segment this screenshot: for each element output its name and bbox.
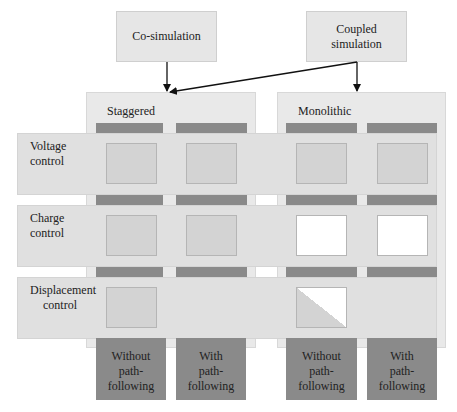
- cell-filled: [106, 143, 157, 184]
- row-label-line1: Voltage: [30, 139, 66, 154]
- column-bar: [96, 267, 163, 277]
- cell-filled: [186, 215, 237, 256]
- column-footer-line2: path-following: [286, 364, 357, 394]
- monolithic-title: Monolithic: [298, 104, 351, 119]
- column-footer-line2: path-following: [176, 364, 246, 394]
- column-footer-monolithic-with: With path-following: [367, 338, 437, 400]
- column-bar: [367, 195, 437, 205]
- coupled-simulation-label-line1: Coupled: [336, 22, 377, 37]
- column-bar: [176, 267, 247, 277]
- column-bar: [286, 267, 357, 277]
- column-bar: [286, 123, 357, 133]
- column-footer-line1: Without: [112, 349, 151, 364]
- cell-filled: [106, 215, 157, 256]
- column-footer-staggered-with: With path-following: [176, 338, 246, 400]
- column-bar: [96, 195, 163, 205]
- arrow-coupled-to-staggered: [170, 62, 357, 92]
- column-bar: [96, 123, 163, 133]
- row-label-charge-control: Charge control: [30, 211, 64, 241]
- cell-filled: [106, 287, 157, 328]
- column-bar: [367, 267, 437, 277]
- row-label-line2: control: [30, 298, 90, 313]
- row-label-line2: control: [30, 154, 66, 169]
- cell-filled: [377, 143, 428, 184]
- column-footer-line1: With: [199, 349, 223, 364]
- row-label-line1: Displacement: [30, 283, 90, 298]
- row-label-line2: control: [30, 226, 64, 241]
- row-label-line1: Charge: [30, 211, 64, 226]
- column-footer-line2: path-following: [96, 364, 166, 394]
- column-footer-line1: With: [390, 349, 414, 364]
- cell-empty: [296, 215, 347, 256]
- cell-empty: [377, 215, 428, 256]
- co-simulation-label: Co-simulation: [132, 29, 201, 44]
- cell-half: [296, 287, 347, 328]
- staggered-title: Staggered: [107, 104, 155, 119]
- coupled-simulation-box: Coupled simulation: [306, 11, 407, 62]
- coupled-simulation-label-line2: simulation: [331, 37, 382, 52]
- column-footer-line1: Without: [302, 349, 341, 364]
- column-bar: [176, 195, 247, 205]
- cell-filled: [186, 143, 237, 184]
- column-bar: [286, 195, 357, 205]
- row-label-voltage-control: Voltage control: [30, 139, 66, 169]
- column-bar: [367, 123, 437, 133]
- column-footer-line2: path-following: [367, 364, 437, 394]
- cell-filled: [296, 143, 347, 184]
- row-label-displacement-control: Displacement control: [30, 283, 90, 313]
- column-bar: [176, 123, 247, 133]
- co-simulation-box: Co-simulation: [116, 11, 217, 62]
- column-footer-staggered-without: Without path-following: [96, 338, 166, 400]
- column-footer-monolithic-without: Without path-following: [286, 338, 357, 400]
